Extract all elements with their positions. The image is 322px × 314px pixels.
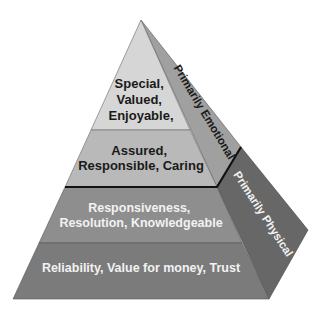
layer-1-label: Special, Valued, Enjoyable, [108,76,173,123]
layer-3-face [39,187,242,243]
layer-4-label: Reliability, Value for money, Trust [42,261,241,275]
pyramid-diagram: Special, Valued, Enjoyable, Assured, Res… [0,0,322,314]
